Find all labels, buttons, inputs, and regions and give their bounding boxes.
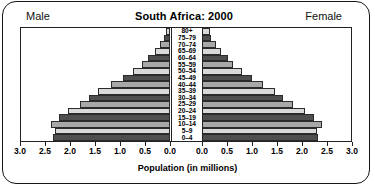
male-cell — [21, 55, 170, 62]
age-group-label: 30–34 — [172, 95, 202, 102]
axis-tick-label-right: 2.0 — [296, 146, 308, 156]
age-group-labels: 0–45–910–1415–1920–2425–2930–3435–3940–4… — [172, 28, 202, 141]
axis-tick-label-right: 0.0 — [196, 146, 208, 156]
age-label-cell: 10–14 — [172, 121, 202, 128]
x-axis-title: Population (in millions) — [0, 163, 375, 173]
male-cell — [21, 121, 170, 128]
female-bar — [202, 75, 252, 82]
female-side-label: Female — [305, 10, 342, 22]
axis-tick-label-right: 2.5 — [321, 146, 333, 156]
female-cell — [202, 28, 351, 35]
female-cell — [202, 68, 351, 75]
female-bar — [202, 61, 233, 68]
male-cell — [21, 114, 170, 121]
female-cell — [202, 101, 351, 108]
axis-tick-label-left: 0.5 — [139, 146, 151, 156]
female-cell — [202, 134, 351, 141]
female-cell — [202, 61, 351, 68]
male-bar — [160, 41, 170, 48]
age-label-cell: 65–69 — [172, 48, 202, 55]
age-label-cell: 25–29 — [172, 101, 202, 108]
axis-tick-label-left: 3.0 — [14, 146, 26, 156]
male-cell — [21, 41, 170, 48]
age-group-label: 75–79 — [172, 35, 202, 42]
female-cell — [202, 108, 351, 115]
female-bar — [202, 128, 317, 135]
male-cell — [21, 88, 170, 95]
age-label-cell: 55–59 — [172, 61, 202, 68]
age-label-cell: 60–64 — [172, 55, 202, 62]
female-bar — [202, 134, 318, 141]
x-axis-ticks: 3.02.52.01.51.00.50.00.00.51.01.52.02.53… — [20, 142, 352, 147]
male-cell — [21, 128, 170, 135]
male-bar — [133, 68, 170, 75]
age-group-label: 40–44 — [172, 81, 202, 88]
figure-header: Male South Africa: 2000 Female — [0, 10, 368, 26]
age-label-cell: 15–19 — [172, 114, 202, 121]
male-cell — [21, 81, 170, 88]
age-label-cell: 5–9 — [172, 128, 202, 135]
female-cell — [202, 114, 351, 121]
age-group-label: 80+ — [172, 28, 202, 35]
female-bar — [202, 41, 216, 48]
age-group-label: 25–29 — [172, 101, 202, 108]
male-cell — [21, 95, 170, 102]
male-bar — [59, 114, 170, 121]
age-group-label: 45–49 — [172, 75, 202, 82]
female-cell — [202, 55, 351, 62]
age-label-cell: 45–49 — [172, 75, 202, 82]
age-group-label: 35–39 — [172, 88, 202, 95]
age-label-cell: 40–44 — [172, 81, 202, 88]
male-cell — [21, 68, 170, 75]
age-group-label: 20–24 — [172, 108, 202, 115]
age-label-cell: 30–34 — [172, 95, 202, 102]
age-group-label: 0–4 — [172, 134, 202, 141]
population-pyramid-figure: Male South Africa: 2000 Female 0–45–910–… — [0, 0, 375, 187]
female-bar — [202, 28, 210, 35]
female-bar — [202, 101, 293, 108]
female-cell — [202, 121, 351, 128]
male-bar — [53, 134, 171, 141]
male-cell — [21, 108, 170, 115]
axis-tick-label-right: 1.0 — [246, 146, 258, 156]
female-bar — [202, 35, 211, 42]
male-bar — [51, 121, 170, 128]
female-bar — [202, 108, 305, 115]
age-label-cell: 80+ — [172, 28, 202, 35]
female-cell — [202, 41, 351, 48]
female-cell — [202, 81, 351, 88]
female-bar — [202, 81, 263, 88]
age-group-label: 5–9 — [172, 128, 202, 135]
female-bar — [202, 55, 228, 62]
male-cell — [21, 61, 170, 68]
female-bar — [202, 68, 242, 75]
age-label-cell: 50–54 — [172, 68, 202, 75]
male-cell — [21, 101, 170, 108]
male-bar — [80, 101, 170, 108]
male-bar — [98, 88, 171, 95]
female-cell — [202, 75, 351, 82]
age-group-label: 10–14 — [172, 121, 202, 128]
age-label-cell: 35–39 — [172, 88, 202, 95]
axis-tick-label-left: 1.5 — [89, 146, 101, 156]
female-cell — [202, 48, 351, 55]
male-bar — [89, 95, 170, 102]
female-bar — [202, 88, 275, 95]
female-bar — [202, 121, 322, 128]
male-cell — [21, 134, 170, 141]
age-group-label: 70–74 — [172, 41, 202, 48]
female-bar — [202, 114, 314, 121]
male-cell — [21, 35, 170, 42]
male-bar — [155, 48, 170, 55]
male-bar — [123, 75, 171, 82]
age-group-label: 65–69 — [172, 48, 202, 55]
center-rule-right — [202, 28, 203, 141]
male-cell — [21, 48, 170, 55]
male-bar — [142, 61, 170, 68]
male-bar — [68, 108, 171, 115]
age-group-label: 15–19 — [172, 114, 202, 121]
axis-tick-label-left: 2.0 — [64, 146, 76, 156]
age-group-label: 50–54 — [172, 68, 202, 75]
axis-tick-label-right: 0.5 — [221, 146, 233, 156]
male-bar — [55, 128, 170, 135]
